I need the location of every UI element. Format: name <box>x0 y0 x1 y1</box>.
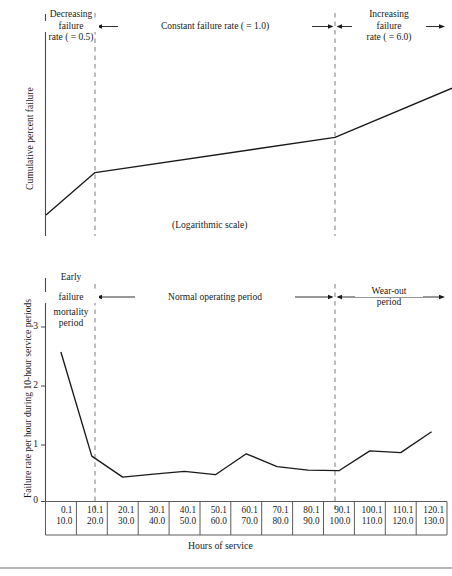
top-zone-3-line2-visible: failure <box>352 21 426 32</box>
top-zone-3-line3: rate ( = 6.0) <box>352 32 426 44</box>
xaxis-cell-9-from: 80.1 <box>293 505 320 516</box>
xaxis-cell-11-to: 110.0 <box>351 516 382 527</box>
bottom-zone-3-line1-visible: Wear-out <box>355 286 423 297</box>
xaxis-cell-10-to: 100.0 <box>322 516 351 527</box>
y-tick-label-0: 0 <box>16 495 38 505</box>
xaxis-cell-10-from: 90.1 <box>322 505 351 516</box>
xaxis-cell-12: 110.1 120.0 <box>382 505 413 527</box>
logarithmic-scale-note: (Logarithmic scale) <box>172 219 247 230</box>
top-zone-1-line2-visible: failure <box>43 21 99 32</box>
xaxis-cell-5-to: 50.0 <box>169 516 196 527</box>
bottom-zone-2-label: Normal operating period <box>135 292 295 303</box>
bottom-zone-1-line1: Early <box>43 272 99 284</box>
bottom-panel-data-line <box>61 352 432 477</box>
bottom-zone-1-line2-visible: failure <box>43 292 99 303</box>
top-zone-1-line3: rate ( = 0.5) <box>43 32 99 44</box>
xaxis-cell-7: 60.1 70.0 <box>231 505 258 527</box>
xaxis-cell-3: 20.1 30.0 <box>107 505 134 527</box>
xaxis-cell-7-to: 70.0 <box>231 516 258 527</box>
xaxis-cell-4: 30.1 40.0 <box>138 505 165 527</box>
bottom-panel-x-axis-title: Hours of service <box>188 540 253 551</box>
xaxis-cell-5: 40.1 50.0 <box>169 505 196 527</box>
xaxis-cell-9: 80.1 90.0 <box>293 505 320 527</box>
xaxis-cell-2-to: 20.0 <box>76 516 103 527</box>
xaxis-cell-1: 0.1 10.0 <box>46 505 73 527</box>
xaxis-cell-4-from: 30.1 <box>138 505 165 516</box>
top-zone-3-line1: Increasing <box>352 9 426 21</box>
xaxis-cell-3-from: 20.1 <box>107 505 134 516</box>
xaxis-cell-2: 10.1 20.0 <box>76 505 103 527</box>
top-zone-1-line1: Decreasing <box>43 9 99 21</box>
xaxis-cell-7-from: 60.1 <box>231 505 258 516</box>
bottom-panel-y-ticks <box>41 327 46 502</box>
xaxis-cell-8: 70.1 80.0 <box>262 505 289 527</box>
xaxis-cell-1-from: 0.1 <box>46 505 73 516</box>
xaxis-cell-13: 120.1 130.0 <box>413 505 444 527</box>
xaxis-cell-6: 50.1 60.0 <box>200 505 227 527</box>
xaxis-cell-11: 100.1 110.0 <box>351 505 382 527</box>
xaxis-cell-12-from: 110.1 <box>382 505 413 516</box>
xaxis-cell-2-from: 10.1 <box>76 505 103 516</box>
xaxis-cell-6-to: 60.0 <box>200 516 227 527</box>
xaxis-cell-5-from: 40.1 <box>169 505 196 516</box>
figure-container: Decreasing failure rate ( = 0.5) failure… <box>0 0 452 576</box>
xaxis-cell-1-to: 10.0 <box>46 516 73 527</box>
top-panel-y-axis-title: Cumulative percent failure <box>24 87 35 190</box>
xaxis-cell-11-from: 100.1 <box>351 505 382 516</box>
top-zone-2-label: Constant failure rate ( = 1.0) <box>118 21 312 32</box>
xaxis-cell-8-to: 80.0 <box>262 516 289 527</box>
bottom-zone-1-line4: mortality <box>43 307 99 319</box>
xaxis-cell-10: 90.1 100.0 <box>322 505 351 527</box>
xaxis-cell-3-to: 30.0 <box>107 516 134 527</box>
bottom-zone-1-line5: period <box>43 318 99 330</box>
bottom-zone-3-line2: period <box>355 297 423 309</box>
xaxis-cell-4-to: 40.0 <box>138 516 165 527</box>
top-panel-data-line <box>46 88 452 215</box>
y-tick-label-2: 2 <box>16 380 38 390</box>
xaxis-cell-8-from: 70.1 <box>262 505 289 516</box>
xaxis-cell-12-to: 120.0 <box>382 516 413 527</box>
xaxis-cell-9-to: 90.0 <box>293 516 320 527</box>
y-tick-label-1: 1 <box>16 439 38 449</box>
y-tick-label-3: 3 <box>16 321 38 331</box>
xaxis-cell-13-from: 120.1 <box>413 505 444 516</box>
xaxis-cell-13-to: 130.0 <box>413 516 444 527</box>
xaxis-cell-6-from: 50.1 <box>200 505 227 516</box>
